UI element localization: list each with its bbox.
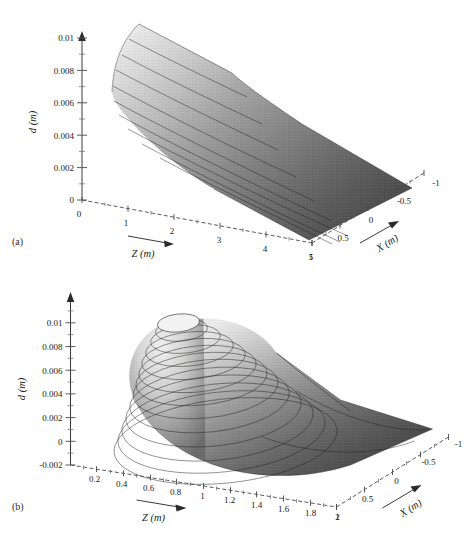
z-axis-label-group-a: Z (m): [128, 236, 174, 260]
z-tick-b-2: 0.6: [143, 483, 155, 493]
surface-a: [112, 24, 412, 244]
z-tick-a-1: 1: [124, 218, 129, 228]
surface-b: [110, 312, 433, 495]
d-tick-a-3: 0.006: [54, 98, 75, 108]
d-tick-a-4: 0.008: [54, 66, 75, 76]
d-tick-b-4: 0.006: [42, 366, 63, 376]
z-tick-b-7: 1.6: [278, 504, 290, 514]
d-tick-b-2: 0.002: [42, 413, 62, 423]
d-axis-a: 0 0.002 0.004 0.006 0.008 0.01 d (m): [27, 31, 87, 205]
z-tick-b-5: 1.2: [224, 495, 235, 505]
x-axis-label-group-b: X (m): [383, 485, 425, 520]
x-tick-a-0: 1: [309, 252, 314, 262]
surface-plot-panel-b: (b): [0, 269, 470, 538]
z-axis-label-b: Z (m): [142, 512, 166, 524]
x-axis-label-group-a: X (m): [360, 221, 401, 255]
x-tick-a-3: -0.5: [397, 196, 412, 206]
surface-a-texture: [112, 24, 412, 240]
surface-plot-a-svg: 0 0.002 0.004 0.006 0.008 0.01 d (m): [0, 0, 470, 269]
surface-plot-panel-a: (a): [0, 0, 470, 269]
d-tick-b-6: 0.01: [47, 318, 63, 328]
d-axis-label-a: d (m): [27, 110, 39, 133]
x-tick-a-1: 0.5: [337, 233, 349, 243]
d-tick-a-5: 0.01: [58, 33, 74, 43]
panel-label-b: (b): [12, 501, 24, 512]
d-tick-b-5: 0.008: [42, 342, 63, 352]
x-tick-b-2: 0: [394, 476, 399, 486]
surface-plot-b-svg: -0.002 0 0.002 0.004 0.006 0.008 0.01 d …: [0, 269, 470, 538]
d-axis-label-b: d (m): [16, 377, 28, 400]
z-tick-b-0: 0.2: [89, 474, 100, 484]
x-tick-a-2: 0: [369, 215, 374, 225]
z-tick-a-4: 4: [263, 244, 268, 254]
z-axis-label-a: Z (m): [131, 248, 155, 260]
z-tick-b-1: 0.4: [116, 479, 128, 489]
x-axis-label-a: X (m): [373, 232, 401, 255]
d-tick-a-0: 0: [70, 195, 75, 205]
d-tick-b-0: -0.002: [39, 460, 62, 470]
d-tick-a-2: 0.004: [54, 131, 75, 141]
d-axis-b: -0.002 0 0.002 0.004 0.006 0.008 0.01 d …: [16, 292, 76, 470]
figure-container: (a): [0, 0, 470, 538]
x-tick-b-1: 0.5: [362, 494, 374, 504]
z-tick-a-0: 0: [77, 209, 82, 219]
x-tick-b-3: -0.5: [421, 457, 436, 467]
z-axis-label-group-b: Z (m): [137, 500, 187, 524]
d-tick-b-3: 0.004: [42, 389, 63, 399]
z-tick-a-2: 2: [170, 226, 175, 236]
x-tick-a-4: -1: [432, 178, 440, 188]
z-tick-b-6: 1.4: [251, 500, 263, 510]
d-tick-b-1: 0: [58, 437, 63, 447]
z-tick-a-3: 3: [217, 235, 222, 245]
x-tick-b-0: 1: [335, 512, 340, 522]
z-tick-b-4: 1: [200, 491, 205, 501]
z-tick-b-3: 0.8: [170, 487, 182, 497]
z-tick-b-8: 1.8: [305, 508, 317, 518]
d-tick-a-1: 0.002: [54, 163, 74, 173]
x-axis-label-b: X (m): [397, 497, 425, 520]
panel-label-a: (a): [12, 236, 23, 247]
x-tick-b-4: -1: [455, 439, 463, 449]
